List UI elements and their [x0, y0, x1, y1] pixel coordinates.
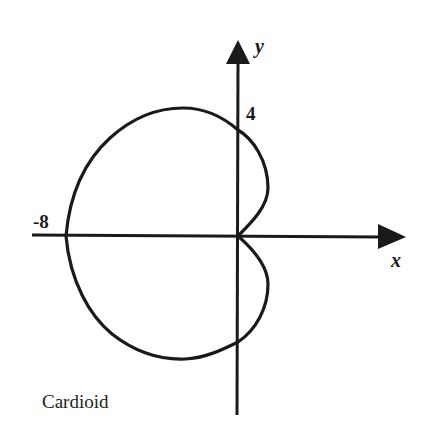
figure-caption: Cardioid: [42, 392, 109, 411]
cardioid-plot: [0, 0, 428, 430]
y-intercept-label: 4: [246, 104, 256, 123]
x-axis-arrow-icon: [378, 224, 406, 249]
x-axis: [32, 235, 382, 237]
x-intercept-label: -8: [33, 212, 49, 231]
y-axis-arrow-icon: [226, 40, 250, 64]
x-axis-label: x: [391, 250, 401, 270]
y-axis-label: y: [255, 36, 264, 56]
cardioid-figure: y x 4 -8 Cardioid: [0, 0, 428, 430]
